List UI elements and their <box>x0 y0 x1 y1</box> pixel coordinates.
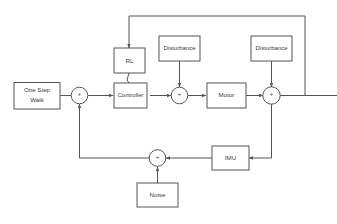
summing-junction-disturbance-1-sign: + <box>178 91 182 97</box>
block-controller[interactable]: Controller <box>114 83 147 108</box>
block-diagram-svg: One Step Walk RL Controller Disturbance … <box>0 0 337 224</box>
summing-junction-input-sign: + <box>78 91 82 97</box>
block-noise-label: Noise <box>150 191 166 198</box>
block-disturbance-2[interactable]: Disturbance <box>251 36 292 61</box>
summing-junction-noise-sign: + <box>156 154 160 160</box>
summing-junction-disturbance-2-sign: + <box>270 91 274 97</box>
block-noise[interactable]: Noise <box>137 183 178 207</box>
block-imu-label: IMU <box>225 154 236 161</box>
block-one-step-walk-label-line1: One Step <box>24 86 51 93</box>
summing-junction-disturbance-2[interactable]: + <box>263 87 280 104</box>
wire-feedback-to-sum-input <box>80 104 150 158</box>
summing-junction-disturbance-1[interactable]: + <box>171 87 188 104</box>
summing-junction-input[interactable]: + <box>71 87 88 104</box>
block-controller-label: Controller <box>117 92 143 98</box>
wire-output-to-imu <box>249 104 272 158</box>
block-disturbance-1-label: Disturbance <box>163 45 196 51</box>
block-one-step-walk[interactable]: One Step Walk <box>14 83 60 110</box>
block-rl[interactable]: RL <box>114 48 145 73</box>
block-diagram-canvas: One Step Walk RL Controller Disturbance … <box>0 0 337 224</box>
block-disturbance-2-label: Disturbance <box>255 45 288 51</box>
block-motor[interactable]: Motor <box>207 83 246 108</box>
summing-junction-noise[interactable]: + <box>149 150 166 167</box>
block-disturbance-1[interactable]: Disturbance <box>159 36 200 61</box>
block-one-step-walk-label-line2: Walk <box>30 96 44 103</box>
block-motor-label: Motor <box>219 91 235 98</box>
block-imu[interactable]: IMU <box>212 146 249 170</box>
block-rl-label: RL <box>126 57 134 64</box>
